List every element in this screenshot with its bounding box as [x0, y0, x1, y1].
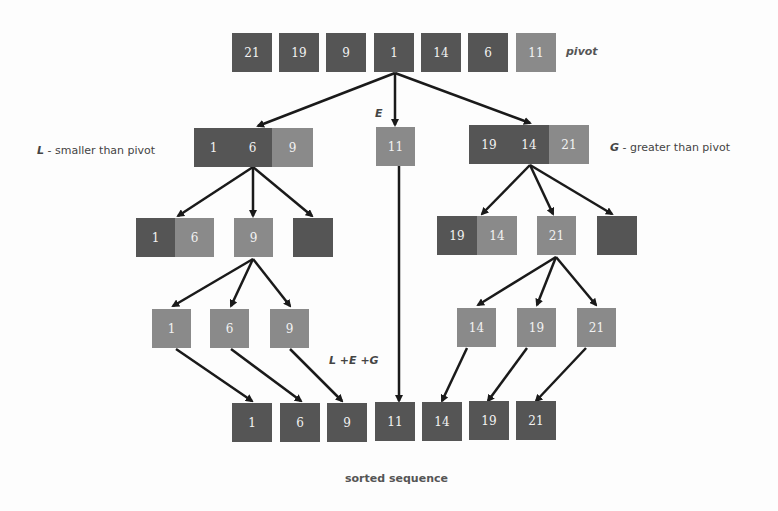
g-letter: G — [610, 141, 619, 154]
right-leaf: 14 — [457, 308, 496, 347]
e-cell: 11 — [376, 127, 415, 166]
input-cell: 6 — [468, 33, 508, 72]
right-leaf: 21 — [577, 308, 616, 347]
l-label: L - smaller than pivot — [37, 144, 155, 157]
right-sub-cell: 19 — [437, 216, 477, 255]
left-sub-cell: 1 — [136, 218, 175, 257]
input-cell: 9 — [326, 33, 366, 72]
right-sub-pivot: 14 — [477, 216, 517, 255]
g-label: G - greater than pivot — [610, 141, 730, 154]
left-sub-pivot: 6 — [175, 218, 214, 257]
right-leaf: 19 — [517, 308, 556, 347]
quicksort-diagram: 21 19 9 1 14 6 11 pivot L - smaller than… — [0, 0, 778, 511]
l-pivot-cell: 9 — [272, 128, 313, 167]
e-label: E — [375, 107, 383, 120]
output-cell: 9 — [327, 403, 367, 442]
g-cell: 14 — [509, 125, 549, 164]
input-cell: 14 — [421, 33, 461, 72]
right-sub-empty — [597, 216, 637, 255]
pivot-label: pivot — [566, 45, 598, 58]
g-pivot-cell: 21 — [549, 125, 589, 164]
l-desc: - smaller than pivot — [44, 144, 155, 157]
input-cell: 21 — [232, 33, 272, 72]
sorted-sequence-label: sorted sequence — [345, 472, 448, 485]
pivot-cell: 11 — [516, 33, 556, 72]
output-cell: 11 — [375, 402, 415, 441]
output-cell: 19 — [469, 401, 509, 440]
output-cell: 14 — [422, 402, 462, 441]
left-leaf: 9 — [270, 309, 309, 348]
input-cell: 1 — [374, 33, 414, 72]
output-cell: 1 — [232, 403, 272, 442]
right-sub-e: 21 — [537, 216, 576, 255]
l-cell: 6 — [233, 128, 272, 167]
left-sub-empty — [293, 218, 333, 257]
left-leaf: 1 — [152, 309, 191, 348]
g-desc: - greater than pivot — [619, 141, 730, 154]
concat-label: L +E +G — [329, 354, 379, 367]
l-cell: 1 — [194, 128, 233, 167]
output-cell: 6 — [280, 403, 320, 442]
left-leaf: 6 — [210, 309, 249, 348]
output-cell: 21 — [516, 401, 556, 440]
l-letter: L — [37, 144, 44, 157]
left-sub-e: 9 — [234, 218, 273, 257]
input-cell: 19 — [279, 33, 319, 72]
g-cell: 19 — [469, 125, 509, 164]
